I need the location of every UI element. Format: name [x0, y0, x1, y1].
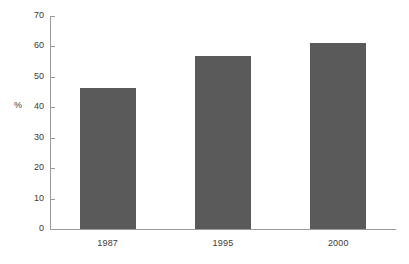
y-tick-label: 30 — [0, 133, 44, 142]
y-tick-label: 0 — [0, 224, 44, 233]
y-axis-line — [50, 16, 51, 230]
y-tick-label-wrap: 10 — [0, 194, 44, 204]
y-tick-mark — [51, 168, 55, 169]
y-tick-label-wrap: 0 — [0, 224, 44, 234]
y-tick-label-wrap: 60 — [0, 41, 44, 51]
x-axis-category-label: 1987 — [78, 238, 138, 248]
y-tick-label: 10 — [0, 194, 44, 203]
y-tick-mark — [51, 16, 55, 17]
bar-chart: % 010203040506070 198719952000 — [0, 0, 409, 264]
y-tick-label-wrap: 50 — [0, 72, 44, 82]
x-axis-line — [50, 229, 396, 230]
y-tick-mark — [51, 46, 55, 47]
y-tick-label: 70 — [0, 11, 44, 20]
y-tick-mark — [51, 107, 55, 108]
y-tick-label: 40 — [0, 102, 44, 111]
bar — [310, 43, 366, 229]
bar — [195, 56, 251, 229]
y-tick-label: 20 — [0, 163, 44, 172]
y-tick-label-wrap: 30 — [0, 133, 44, 143]
y-tick-label-wrap: 40 — [0, 102, 44, 112]
y-tick-mark — [51, 199, 55, 200]
y-tick-mark — [51, 138, 55, 139]
bar — [80, 88, 136, 229]
y-tick-label: 50 — [0, 72, 44, 81]
y-tick-label-wrap: 20 — [0, 163, 44, 173]
y-tick-mark — [51, 77, 55, 78]
y-tick-label-wrap: 70 — [0, 11, 44, 21]
x-axis-category-label: 1995 — [193, 238, 253, 248]
x-axis-category-label: 2000 — [308, 238, 368, 248]
y-tick-label: 60 — [0, 41, 44, 50]
